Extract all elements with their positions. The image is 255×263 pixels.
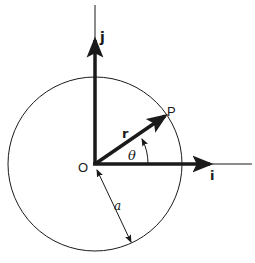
diagram-canvas: j i O P r θ a <box>0 0 255 263</box>
label-angle-theta: θ <box>128 148 136 163</box>
label-origin: O <box>78 160 88 175</box>
label-i: i <box>210 168 214 183</box>
label-point-p: P <box>167 104 176 119</box>
label-vector-r: r <box>122 126 129 141</box>
angle-arc <box>142 139 148 164</box>
label-j: j <box>99 29 105 45</box>
label-radius-a: a <box>114 199 121 213</box>
